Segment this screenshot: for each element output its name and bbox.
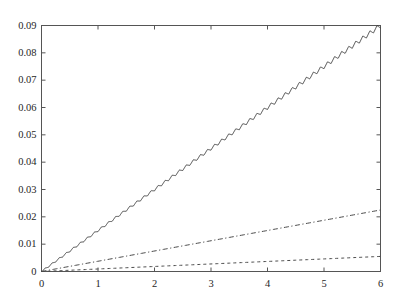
y-tick-label: 0 <box>31 266 36 277</box>
x-tick-label: 2 <box>152 279 157 290</box>
x-tick-label: 4 <box>265 279 270 290</box>
y-tick-label: 0.01 <box>18 239 36 250</box>
y-tick-label: 0.03 <box>18 184 36 195</box>
y-tick-label: 0.06 <box>18 102 36 113</box>
chart-plot-area <box>0 0 401 306</box>
y-tick-label: 0.09 <box>18 20 36 31</box>
x-tick-label: 5 <box>321 279 326 290</box>
y-tick-label: 0.02 <box>18 212 36 223</box>
y-tick-label: 0.07 <box>18 75 36 86</box>
x-tick-label: 1 <box>95 279 100 290</box>
x-tick-label: 6 <box>378 279 383 290</box>
x-tick-label: 3 <box>208 279 213 290</box>
plot-background <box>0 0 401 306</box>
x-tick-label: 0 <box>39 279 44 290</box>
y-tick-label: 0.05 <box>18 130 36 141</box>
y-tick-label: 0.04 <box>18 157 36 168</box>
y-tick-label: 0.08 <box>18 48 36 59</box>
figure-canvas: 00.010.020.030.040.050.060.070.080.09 01… <box>0 0 401 306</box>
